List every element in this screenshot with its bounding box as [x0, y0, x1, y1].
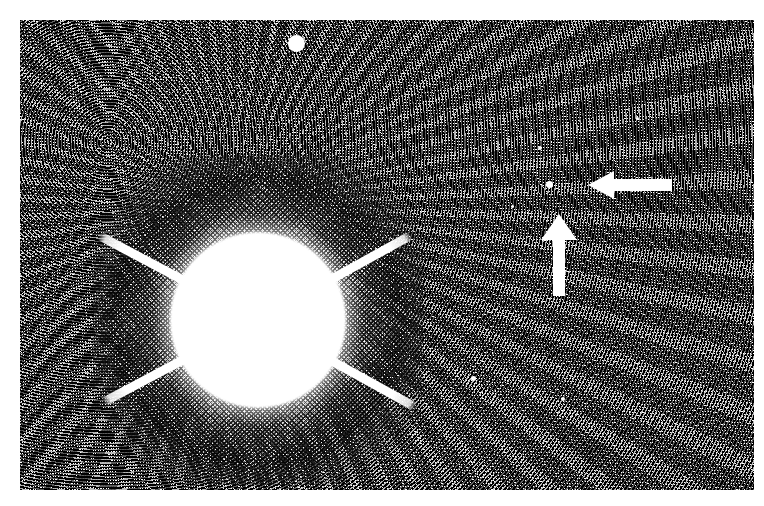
up-arrow-annotation	[540, 214, 578, 296]
arrow-target-object	[546, 181, 553, 188]
figure-page	[0, 0, 764, 506]
grain-layer-density	[20, 20, 754, 490]
star-core	[170, 232, 346, 408]
diffraction-spike-lower-left	[101, 316, 260, 406]
grain-layer-cross	[20, 20, 754, 490]
faint-star-lower	[561, 397, 565, 401]
faint-star-lower-mid	[471, 376, 476, 381]
faint-star-mid	[511, 205, 514, 208]
astronomical-plate	[20, 20, 754, 490]
central-star	[93, 155, 423, 485]
diffraction-spike-upper-right	[256, 231, 413, 324]
grain-layer-base	[20, 20, 754, 490]
bright-star-top	[288, 35, 305, 52]
diffraction-spike-lower-right	[256, 316, 418, 411]
faint-star-right	[538, 146, 542, 150]
faint-star-upper	[636, 117, 639, 120]
diffraction-spike-upper-left	[97, 232, 260, 324]
grain-layer-conic	[20, 20, 754, 490]
star-halo	[93, 155, 423, 485]
grain-layer-speckle	[20, 20, 754, 490]
star-halo-halftone	[93, 155, 423, 485]
left-arrow-annotation	[588, 170, 672, 200]
